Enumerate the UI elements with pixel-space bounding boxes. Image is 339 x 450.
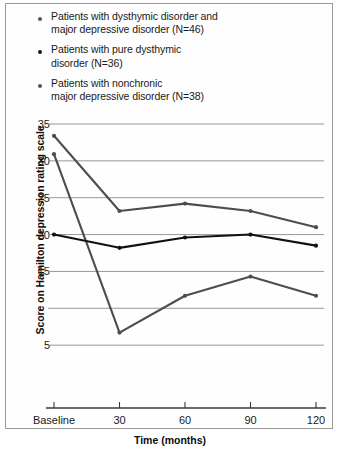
legend-item-pure-dysthymic: Patients with pure dysthymic disorder (N…	[36, 43, 301, 69]
x-axis-tick-label: 120	[307, 414, 325, 426]
figure-container: Patients with dysthymic disorder and maj…	[5, 3, 333, 429]
plot-area: Score on Hamilton depression rating scal…	[6, 112, 334, 450]
x-axis-tick-label: Baseline	[33, 414, 75, 426]
data-point-pure-dysthymic	[314, 244, 318, 248]
data-point-dysthymic-and-mdd	[183, 294, 187, 298]
data-point-nonchronic-mdd	[314, 225, 318, 229]
data-point-nonchronic-mdd	[248, 209, 252, 213]
data-point-dysthymic-and-mdd	[117, 331, 121, 335]
legend-marker-icon	[38, 17, 42, 21]
x-axis-title: Time (months)	[6, 434, 334, 446]
legend-item-label: Patients with pure dysthymic disorder (N…	[51, 43, 181, 69]
line-chart-svg	[6, 112, 334, 430]
data-point-pure-dysthymic	[248, 232, 252, 236]
x-axis-tick-label: 60	[179, 414, 191, 426]
legend-item-label: Patients with dysthymic disorder and maj…	[51, 10, 218, 36]
legend-item-nonchronic-mdd: Patients with nonchronic major depressiv…	[36, 77, 301, 103]
data-point-nonchronic-mdd	[183, 202, 187, 206]
legend-item-label: Patients with nonchronic major depressiv…	[51, 77, 204, 103]
x-axis-tick-label: 90	[244, 414, 256, 426]
legend-marker-icon	[38, 84, 42, 88]
data-point-pure-dysthymic	[183, 235, 187, 239]
series-line-nonchronic-mdd	[54, 136, 316, 227]
data-point-nonchronic-mdd	[52, 134, 56, 138]
data-point-dysthymic-and-mdd	[248, 274, 252, 278]
data-point-nonchronic-mdd	[117, 209, 121, 213]
data-point-pure-dysthymic	[117, 246, 121, 250]
chart-legend: Patients with dysthymic disorder and maj…	[36, 10, 301, 110]
x-axis-tick-label: 30	[113, 414, 125, 426]
data-point-dysthymic-and-mdd	[314, 294, 318, 298]
legend-item-dysthymic-and-mdd: Patients with dysthymic disorder and maj…	[36, 10, 301, 36]
legend-marker-icon	[38, 50, 42, 54]
data-point-pure-dysthymic	[52, 232, 56, 236]
data-point-dysthymic-and-mdd	[52, 152, 56, 156]
